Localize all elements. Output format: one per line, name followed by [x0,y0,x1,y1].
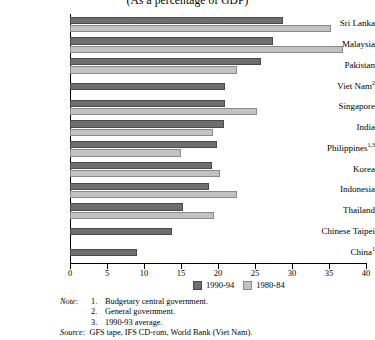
legend-swatch-icon [193,281,202,290]
bar-1980-84 [70,66,237,73]
source-text: GFS tape, IFS CD-rom, World Bank (Viet N… [90,328,253,338]
x-tick-label: 30 [288,268,297,278]
bar-1990-94 [70,162,212,169]
bar-1980-84 [70,25,331,32]
x-tick-label: 35 [325,268,334,278]
category-label-thailand: Thailand [307,206,375,215]
x-tick-label: 15 [177,268,186,278]
bar-1990-94 [70,17,283,24]
legend-entry-1990-94: 1990-94 [193,280,234,290]
bar-1980-84 [70,191,237,198]
legend-entry-1980-84: 1980-84 [243,280,284,290]
x-tick-label: 40 [362,268,371,278]
bar-1980-84 [70,170,220,177]
bar-1980-84 [70,46,343,53]
x-tick-label: 10 [140,268,149,278]
note-text: General government. [105,307,372,317]
x-tick-label: 25 [251,268,260,278]
bar-1980-84 [70,108,257,115]
legend-label: 1980-84 [256,280,284,290]
bar-1990-94 [70,141,217,148]
chart-legend: 1990-941980-84 [193,280,285,290]
bar-1990-94 [70,228,172,235]
bar-1980-84 [70,212,214,219]
legend-swatch-icon [243,281,252,290]
note-row: Note:1.Budgetary central government. [60,297,372,307]
note-number: 2. [91,307,105,317]
x-tick-label: 20 [214,268,223,278]
category-label-chinese-taipei: Chinese Taipei [307,227,375,236]
x-tick-label: 5 [105,268,109,278]
source-kicker: Source: [60,328,86,338]
bar-1990-94 [70,37,273,44]
category-label-china: China1 [307,248,375,257]
category-label-viet-nam: Viet Nam2 [307,82,375,91]
category-label-pakistan: Pakistan [307,61,375,70]
notes-items: Note:1.Budgetary central government.2.Ge… [60,297,372,328]
bar-chart-figure: (As a percentage of GDP) 051015202530354… [0,0,375,340]
x-tick-label: 0 [68,268,72,278]
note-kicker: Note: [60,297,91,307]
bar-1980-84 [70,129,213,136]
bar-1990-94 [70,120,224,127]
category-label-korea: Korea [307,165,375,174]
note-row: 2.General government. [60,307,372,317]
legend-label: 1990-94 [206,280,234,290]
note-text: Budgetary central government. [105,297,372,307]
category-footnote-marker: 1,3 [368,142,375,148]
bar-1990-94 [70,83,225,90]
note-row: 3.1990-93 average. [60,318,372,328]
bar-1990-94 [70,249,137,256]
bar-1990-94 [70,100,225,107]
bar-1990-94 [70,203,183,210]
category-label-india: India [307,123,375,132]
bar-1980-84 [70,149,181,156]
note-number: 1. [91,297,105,307]
chart-title: (As a percentage of GDP) [0,0,375,6]
note-number: 3. [91,318,105,328]
category-label-singapore: Singapore [307,102,375,111]
source-row: Source: GFS tape, IFS CD-rom, World Bank… [60,328,372,338]
notes-block: Note:1.Budgetary central government.2.Ge… [60,297,372,338]
bar-1990-94 [70,58,261,65]
note-text: 1990-93 average. [105,318,372,328]
bar-1990-94 [70,183,209,190]
category-label-indonesia: Indonesia [307,185,375,194]
category-label-philippines: Philippines1,3 [307,144,375,153]
